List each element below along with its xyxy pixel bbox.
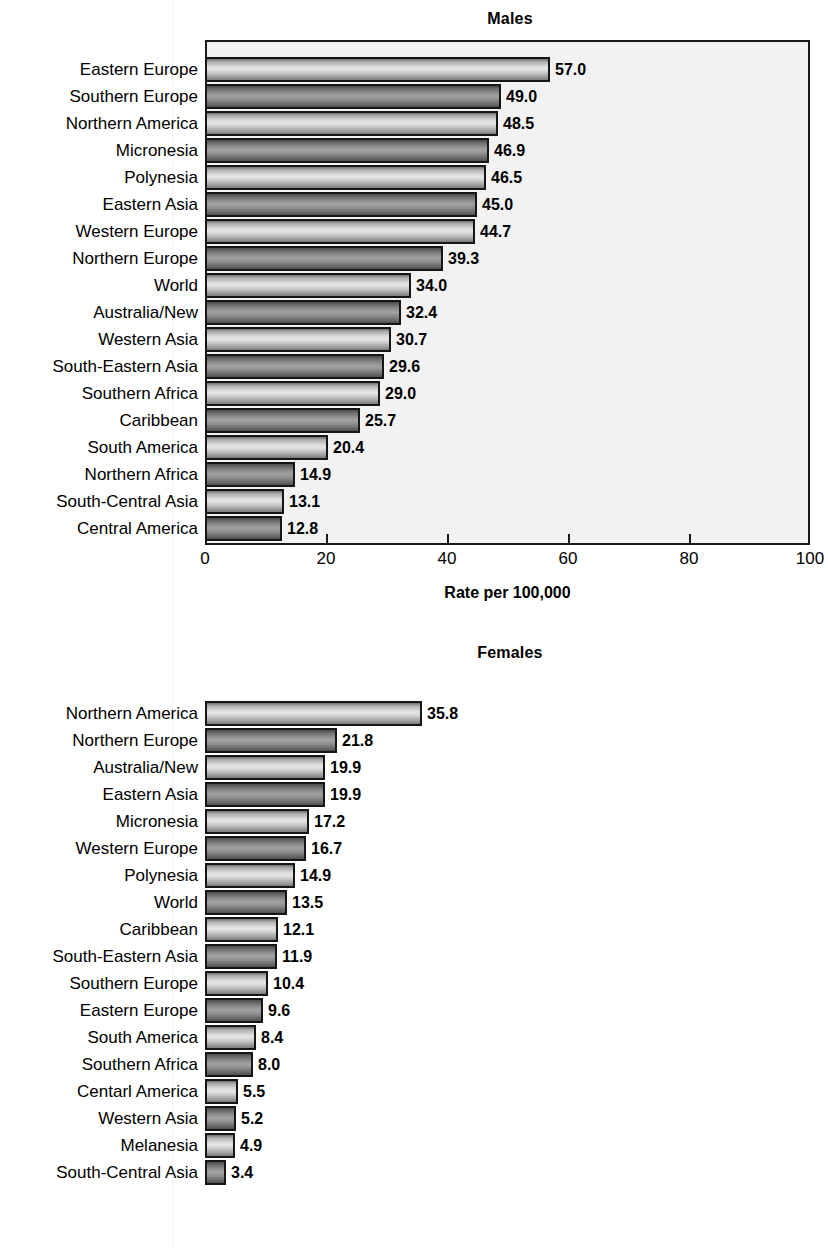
bar-category-label: Polynesia [0,165,198,190]
bar-value-label: 11.9 [277,944,312,969]
bar-value-label: 8.4 [256,1025,283,1050]
bar-value-label: 3.4 [226,1160,253,1185]
bar-row: Western Europe44.7 [0,219,828,244]
bar [205,755,325,780]
bar-category-label: Western Europe [0,836,198,861]
bar-category-label: World [0,273,198,298]
bar-value-label: 57.0 [550,57,586,82]
bar-category-label: South-Central Asia [0,1160,198,1185]
bar-category-label: Southern Europe [0,84,198,109]
bar-category-label: Eastern Asia [0,782,198,807]
bar-category-label: Centarl America [0,1079,198,1104]
bar [205,701,422,726]
bar-row: Eastern Asia19.9 [0,782,828,807]
chart-females: Females Northern America35.8Northern Eur… [0,620,828,1248]
chart-title-males: Males [205,10,815,28]
axis-tick-label: 100 [796,549,824,569]
bar-wrapper [205,57,550,82]
bar-wrapper [205,327,391,352]
bar-value-label: 46.9 [489,138,525,163]
bar [205,300,401,325]
bar-row: Micronesia46.9 [0,138,828,163]
bar-wrapper [205,836,306,861]
bar [205,354,384,379]
bar [205,435,328,460]
axis-tick-label: 40 [438,549,457,569]
bar [205,57,550,82]
bar [205,219,475,244]
bar-wrapper [205,408,360,433]
bar-value-label: 25.7 [360,408,396,433]
x-axis-title-males: Rate per 100,000 [205,584,810,602]
bar-category-label: Eastern Europe [0,57,198,82]
bar-row: South-Eastern Asia11.9 [0,944,828,969]
bar-category-label: South America [0,435,198,460]
bar-category-label: Western Asia [0,327,198,352]
bar [205,809,309,834]
bar-wrapper [205,890,287,915]
bar-wrapper [205,971,268,996]
bar-category-label: South-Eastern Asia [0,944,198,969]
bar-row: Central America12.8 [0,516,828,541]
bar [205,408,360,433]
bar-category-label: South America [0,1025,198,1050]
bar-category-label: South-Eastern Asia [0,354,198,379]
bar-category-label: Northern Europe [0,246,198,271]
bar-wrapper [205,1133,235,1158]
bar-wrapper [205,381,380,406]
bar-value-label: 5.5 [238,1079,265,1104]
bar [205,192,477,217]
bar [205,462,295,487]
bar-category-label: Western Europe [0,219,198,244]
bar-row: Eastern Europe57.0 [0,57,828,82]
bar-row: Western Europe16.7 [0,836,828,861]
bar-wrapper [205,138,489,163]
bar [205,890,287,915]
bar-wrapper [205,809,309,834]
bar-wrapper [205,111,498,136]
axis-tick-label: 0 [200,549,209,569]
bar-row: Melanesia4.9 [0,1133,828,1158]
bar-row: South America20.4 [0,435,828,460]
bar-wrapper [205,1106,236,1131]
bar-row: Southern Europe10.4 [0,971,828,996]
bar-row: Southern Europe49.0 [0,84,828,109]
bar [205,1025,256,1050]
bar-row: Caribbean25.7 [0,408,828,433]
bar-value-label: 29.6 [384,354,420,379]
bar-value-label: 21.8 [337,728,373,753]
bar-wrapper [205,1052,253,1077]
bar [205,1106,236,1131]
bar-category-label: World [0,890,198,915]
bar-category-label: Australia/New [0,755,198,780]
bar-wrapper [205,917,278,942]
bar-row: South America8.4 [0,1025,828,1050]
figure-page: Males Eastern Europe57.0Southern Europe4… [0,0,828,1248]
bar-value-label: 4.9 [235,1133,262,1158]
bar-value-label: 14.9 [295,462,331,487]
bar [205,1133,235,1158]
bar-wrapper [205,354,384,379]
bar-wrapper [205,273,411,298]
bar-row: Northern Europe39.3 [0,246,828,271]
bar-wrapper [205,435,328,460]
bar-row: Northern America48.5 [0,111,828,136]
bar [205,836,306,861]
bar-value-label: 34.0 [411,273,447,298]
bar-category-label: South-Central Asia [0,489,198,514]
bar-category-label: Northern America [0,111,198,136]
axis-tick-label: 20 [317,549,336,569]
bar [205,165,486,190]
bar-rows-females: Northern America35.8Northern Europe21.8A… [0,701,828,1187]
bar-wrapper [205,1079,238,1104]
bar-wrapper [205,516,282,541]
axis-tick [689,534,691,545]
bar-category-label: Polynesia [0,863,198,888]
bar-row: South-Eastern Asia29.6 [0,354,828,379]
bar-value-label: 30.7 [391,327,427,352]
bar-value-label: 35.8 [422,701,458,726]
bar-category-label: Southern Africa [0,1052,198,1077]
bar-row: Western Asia5.2 [0,1106,828,1131]
bar-row: Southern Africa29.0 [0,381,828,406]
bar-category-label: Micronesia [0,809,198,834]
